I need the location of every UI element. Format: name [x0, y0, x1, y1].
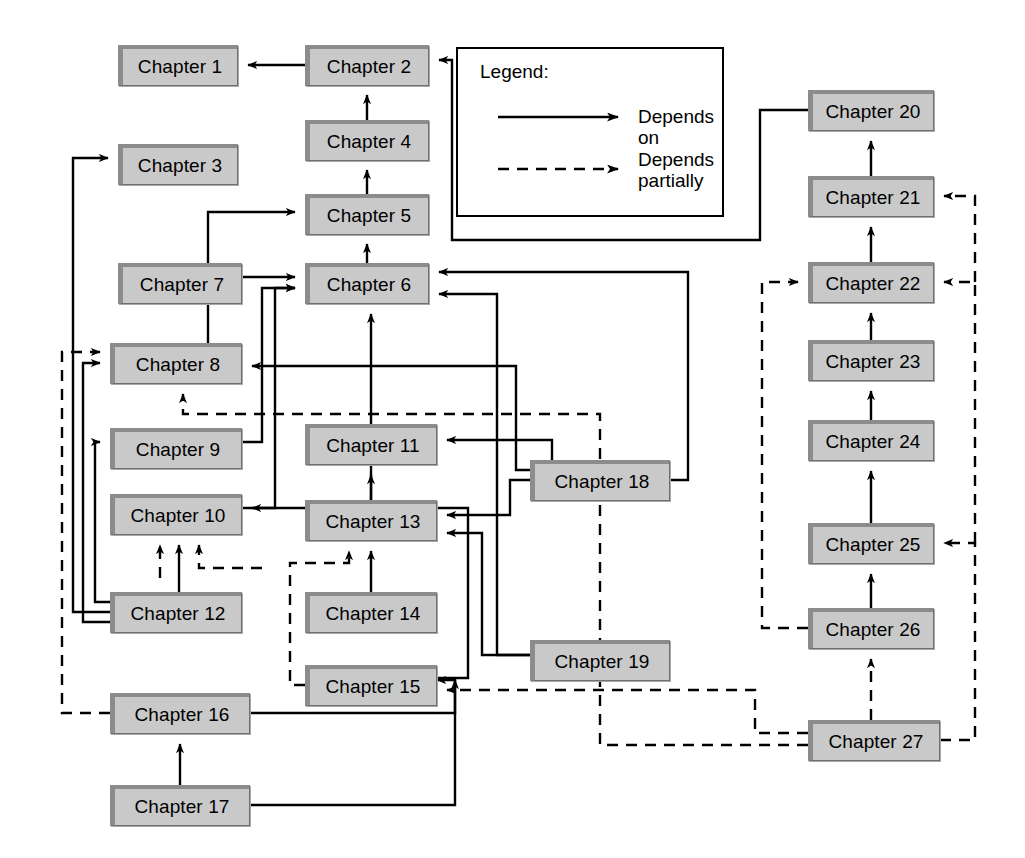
node-label: Chapter 11 — [326, 435, 420, 457]
node-ch14[interactable]: Chapter 14 — [305, 592, 437, 633]
node-ch2[interactable]: Chapter 2 — [305, 45, 429, 86]
node-label: Chapter 6 — [327, 274, 411, 296]
node-ch7[interactable]: Chapter 7 — [118, 263, 242, 304]
edge-ch27-ch15 — [447, 690, 808, 733]
edge-ch27-ch21 — [944, 196, 975, 282]
edge-ch18-ch6 — [439, 272, 688, 480]
node-ch16[interactable]: Chapter 16 — [110, 693, 250, 734]
legend-label-depends-partially: Depends partially — [638, 149, 714, 191]
node-label: Chapter 13 — [325, 511, 420, 533]
node-ch25[interactable]: Chapter 25 — [808, 523, 934, 564]
edge-ch27-ch22 — [944, 282, 975, 543]
edge-ch27-ch25 — [940, 543, 975, 740]
node-ch17[interactable]: Chapter 17 — [110, 785, 250, 826]
node-label: Chapter 3 — [138, 155, 222, 177]
node-ch18[interactable]: Chapter 18 — [530, 460, 670, 501]
legend-dashed-arrow-icon — [498, 161, 628, 177]
legend-label-line2: partially — [638, 170, 714, 191]
node-ch10[interactable]: Chapter 10 — [110, 494, 242, 535]
node-label: Chapter 23 — [825, 351, 920, 373]
node-ch6[interactable]: Chapter 6 — [305, 263, 429, 304]
legend-label-depends-on: Depends on — [638, 106, 722, 148]
edge-ch10-ch6 — [242, 288, 295, 508]
node-ch15[interactable]: Chapter 15 — [305, 665, 437, 706]
node-ch26[interactable]: Chapter 26 — [808, 608, 934, 649]
edge-ch19-ch6 — [439, 294, 530, 655]
node-label: Chapter 22 — [825, 273, 920, 295]
node-label: Chapter 8 — [136, 354, 220, 376]
node-ch4[interactable]: Chapter 4 — [305, 120, 429, 161]
node-label: Chapter 5 — [327, 205, 411, 227]
node-label: Chapter 24 — [825, 431, 920, 453]
edge-ch12-ch3 — [73, 158, 110, 612]
node-ch1[interactable]: Chapter 1 — [118, 45, 238, 86]
legend-solid-arrow-icon — [498, 109, 628, 125]
node-ch12[interactable]: Chapter 12 — [110, 592, 242, 633]
edge-ch26-ch22 — [762, 282, 808, 628]
edge-ch19-ch13 — [447, 533, 530, 655]
node-label: Chapter 26 — [825, 619, 920, 641]
node-label: Chapter 10 — [130, 505, 225, 527]
node-label: Chapter 20 — [825, 101, 920, 123]
node-label: Chapter 15 — [325, 676, 420, 698]
node-ch19[interactable]: Chapter 19 — [530, 640, 670, 681]
diagram-canvas: Legend: Depends on Depends partially Cha… — [0, 0, 1025, 858]
edge-ch12-ch10-dashed-b — [199, 545, 262, 568]
node-ch20[interactable]: Chapter 20 — [808, 90, 934, 131]
node-ch24[interactable]: Chapter 24 — [808, 420, 934, 461]
legend-box: Legend: Depends on Depends partially — [456, 47, 724, 217]
node-label: Chapter 2 — [327, 56, 411, 78]
edge-ch18-ch11 — [447, 440, 552, 460]
edge-ch16-ch8 — [62, 352, 110, 713]
node-ch5[interactable]: Chapter 5 — [305, 194, 429, 235]
node-label: Chapter 14 — [325, 603, 420, 625]
edge-ch27-ch8 — [183, 394, 808, 745]
node-ch13[interactable]: Chapter 13 — [305, 500, 437, 541]
node-label: Chapter 19 — [554, 651, 649, 673]
node-label: Chapter 1 — [138, 56, 222, 78]
node-label: Chapter 9 — [136, 439, 220, 461]
legend-title: Legend: — [480, 61, 549, 83]
node-ch27[interactable]: Chapter 27 — [808, 720, 940, 761]
edge-ch12-ch8 — [83, 363, 110, 622]
node-ch3[interactable]: Chapter 3 — [118, 144, 238, 185]
node-label: Chapter 25 — [825, 534, 920, 556]
edge-ch18-ch13 — [447, 480, 530, 515]
node-ch23[interactable]: Chapter 23 — [808, 340, 934, 381]
node-ch11[interactable]: Chapter 11 — [305, 424, 437, 465]
node-label: Chapter 18 — [554, 471, 649, 493]
node-label: Chapter 16 — [134, 704, 229, 726]
edge-ch12-ch9 — [95, 442, 110, 602]
node-ch8[interactable]: Chapter 8 — [110, 343, 242, 384]
legend-label-line1: Depends — [638, 149, 714, 170]
node-label: Chapter 12 — [130, 603, 225, 625]
node-label: Chapter 4 — [327, 131, 411, 153]
node-label: Chapter 27 — [828, 731, 923, 753]
node-ch9[interactable]: Chapter 9 — [110, 428, 242, 469]
node-ch21[interactable]: Chapter 21 — [808, 176, 934, 217]
node-ch22[interactable]: Chapter 22 — [808, 262, 934, 303]
node-label: Chapter 7 — [140, 274, 224, 296]
node-label: Chapter 21 — [825, 187, 920, 209]
node-label: Chapter 17 — [134, 796, 229, 818]
